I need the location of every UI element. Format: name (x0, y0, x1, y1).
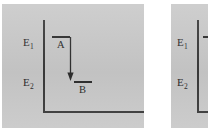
energy-level-diagram-right: E1 E2 (171, 4, 208, 128)
energy-region-e1-subscript: 1 (30, 42, 34, 51)
figure-canvas: E1 E2 A B E1 E2 (0, 0, 208, 131)
level-b-label: B (79, 85, 86, 96)
energy-region-e2: E2 (23, 77, 34, 91)
level-a-bar (203, 36, 208, 38)
energy-region-e1-subscript: 1 (184, 42, 188, 51)
level-a-label: A (57, 40, 65, 51)
energy-region-e2: E2 (177, 77, 188, 91)
baseline-axis (197, 111, 208, 113)
energy-axis (197, 20, 199, 113)
energy-region-e2-symbol: E (177, 76, 184, 88)
downward-transition-arrow (66, 37, 75, 82)
level-b-bar (74, 81, 92, 83)
energy-axis (43, 20, 45, 113)
energy-region-e1-symbol: E (177, 36, 184, 48)
energy-region-e1-symbol: E (23, 36, 30, 48)
energy-region-e1: E1 (177, 37, 188, 51)
energy-region-e1: E1 (23, 37, 34, 51)
energy-region-e2-symbol: E (23, 76, 30, 88)
energy-region-e2-subscript: 2 (30, 82, 34, 91)
baseline-axis (43, 111, 144, 113)
energy-level-diagram-left: E1 E2 A B (2, 4, 144, 128)
energy-region-e2-subscript: 2 (184, 82, 188, 91)
